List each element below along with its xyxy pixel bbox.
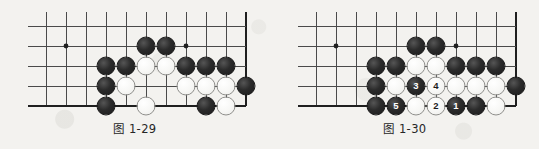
go-stone-black <box>97 57 116 76</box>
go-stone-black-move-3: 3 <box>407 77 426 96</box>
move-number-1: 1 <box>453 101 458 111</box>
go-stones-right: 34521 <box>270 0 539 120</box>
go-stone-black <box>97 77 116 96</box>
go-stone-black <box>367 57 386 76</box>
go-stone-black <box>197 57 216 76</box>
go-stone-white <box>387 77 406 96</box>
go-stone-white <box>137 57 156 76</box>
go-stone-white <box>467 77 486 96</box>
caption-text-right: 图 1-30 <box>383 122 426 136</box>
go-stone-white <box>117 77 136 96</box>
move-number-2: 2 <box>433 101 438 111</box>
figure-caption-left: 图 1-29 <box>0 120 270 136</box>
go-stone-black <box>157 37 176 56</box>
go-stone-white <box>217 97 236 116</box>
caption-text-left: 图 1-29 <box>113 122 156 136</box>
go-stone-white <box>217 77 236 96</box>
go-diagram-figure-left: 图 1-29 <box>0 0 270 149</box>
go-stone-black <box>487 57 506 76</box>
go-stone-white <box>157 57 176 76</box>
go-stone-black <box>427 37 446 56</box>
go-stone-white <box>407 57 426 76</box>
go-stone-white <box>137 97 156 116</box>
go-stone-black <box>447 57 466 76</box>
go-stone-black <box>367 77 386 96</box>
go-stone-white-move-4: 4 <box>427 77 446 96</box>
go-stone-white <box>427 57 446 76</box>
go-stone-black <box>237 77 256 96</box>
go-stone-black <box>467 97 486 116</box>
go-stone-white <box>487 97 506 116</box>
go-stone-black <box>507 77 526 96</box>
go-stone-black <box>97 97 116 116</box>
go-stone-black-move-1: 1 <box>447 97 466 116</box>
move-number-3: 3 <box>413 81 418 91</box>
diagram-page: 图 1-29 34521 图 1-30 <box>0 0 539 149</box>
go-stone-white <box>197 77 216 96</box>
go-stone-black <box>137 37 156 56</box>
go-stone-white-move-2: 2 <box>427 97 446 116</box>
go-stone-white <box>487 77 506 96</box>
move-number-4: 4 <box>433 81 438 91</box>
go-stone-white <box>177 77 196 96</box>
go-stone-black-move-5: 5 <box>387 97 406 116</box>
go-stone-black <box>407 37 426 56</box>
figure-caption-right: 图 1-30 <box>270 120 539 136</box>
go-stone-white <box>447 77 466 96</box>
go-stone-black <box>197 97 216 116</box>
go-stone-black <box>177 57 196 76</box>
go-stone-black <box>117 57 136 76</box>
go-stones-left <box>0 0 270 120</box>
move-number-5: 5 <box>393 101 398 111</box>
go-stone-black <box>217 57 236 76</box>
go-stone-black <box>467 57 486 76</box>
go-stone-black <box>387 57 406 76</box>
go-stone-white <box>407 97 426 116</box>
go-stone-black <box>367 97 386 116</box>
go-diagram-figure-right: 34521 图 1-30 <box>270 0 539 149</box>
